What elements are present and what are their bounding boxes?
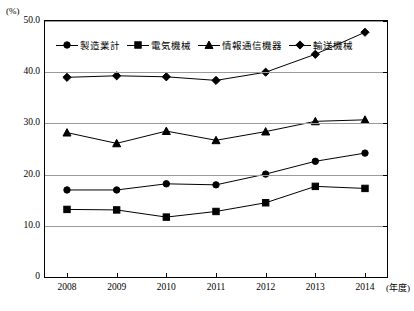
data-point <box>262 200 268 206</box>
data-point <box>113 187 119 193</box>
legend-marker-triangle-icon <box>198 40 220 50</box>
x-tick <box>67 273 68 277</box>
legend-marker-diamond-icon <box>289 40 311 50</box>
x-tick <box>365 273 366 277</box>
y-tick-label: 30.0 <box>4 117 40 127</box>
x-tick <box>166 273 167 277</box>
series-layer <box>45 21 387 277</box>
x-tick-label: 2010 <box>143 282 189 292</box>
x-tick-label: 2011 <box>193 282 239 292</box>
x-tick-label: 2014 <box>342 282 388 292</box>
y-tick <box>383 226 387 227</box>
gridline <box>45 226 387 227</box>
x-tick <box>117 273 118 277</box>
y-tick <box>383 72 387 73</box>
data-point <box>64 42 70 48</box>
y-tick-label: 50.0 <box>4 15 40 25</box>
chart-container: (%) (年度) 010.020.030.040.050.0 200820092… <box>0 0 414 311</box>
y-tick-label: 0 <box>4 271 40 281</box>
data-point <box>205 41 213 48</box>
y-tick <box>383 277 387 278</box>
legend-label: 輸送機械 <box>313 38 353 52</box>
data-point <box>63 73 71 81</box>
data-point <box>163 181 169 187</box>
x-tick <box>216 273 217 277</box>
y-tick <box>383 21 387 22</box>
gridline <box>45 21 387 22</box>
x-axis-unit: (年度) <box>386 281 410 294</box>
data-point <box>362 150 368 156</box>
data-point <box>163 214 169 220</box>
gridline <box>45 72 387 73</box>
legend-label: 情報通信機器 <box>222 38 282 52</box>
legend-item: 輸送機械 <box>289 38 353 52</box>
series-triangle <box>63 116 369 147</box>
series-diamond <box>63 28 369 84</box>
data-point <box>362 185 368 191</box>
y-tick-label: 40.0 <box>4 66 40 76</box>
data-point <box>361 28 369 36</box>
data-point <box>162 73 170 81</box>
legend-label: 電気機械 <box>151 38 191 52</box>
data-point <box>213 208 219 214</box>
x-tick-label: 2013 <box>292 282 338 292</box>
gridline <box>45 123 387 124</box>
data-point <box>212 76 220 84</box>
y-tick <box>383 175 387 176</box>
legend-item: 電気機械 <box>127 38 191 52</box>
x-tick <box>315 273 316 277</box>
x-tick-label: 2008 <box>44 282 90 292</box>
x-tick-label: 2009 <box>94 282 140 292</box>
data-point <box>135 42 141 48</box>
data-point <box>63 129 71 136</box>
data-point <box>312 158 318 164</box>
data-point <box>296 41 304 49</box>
legend-item: 製造業計 <box>56 38 120 52</box>
data-point <box>64 206 70 212</box>
legend-item: 情報通信機器 <box>198 38 282 52</box>
legend-marker-square-icon <box>127 40 149 50</box>
plot-area <box>44 20 388 278</box>
data-point <box>162 127 170 134</box>
y-tick-label: 20.0 <box>4 169 40 179</box>
y-tick <box>383 123 387 124</box>
data-point <box>64 187 70 193</box>
legend-label: 製造業計 <box>80 38 120 52</box>
series-square <box>64 183 368 220</box>
data-point <box>312 183 318 189</box>
y-tick-label: 10.0 <box>4 220 40 230</box>
data-point <box>113 207 119 213</box>
x-tick <box>266 273 267 277</box>
data-point <box>213 182 219 188</box>
chart-legend: 製造業計電気機械情報通信機器輸送機械 <box>56 38 360 52</box>
legend-marker-circle-icon <box>56 40 78 50</box>
gridline <box>45 175 387 176</box>
x-tick-label: 2012 <box>243 282 289 292</box>
